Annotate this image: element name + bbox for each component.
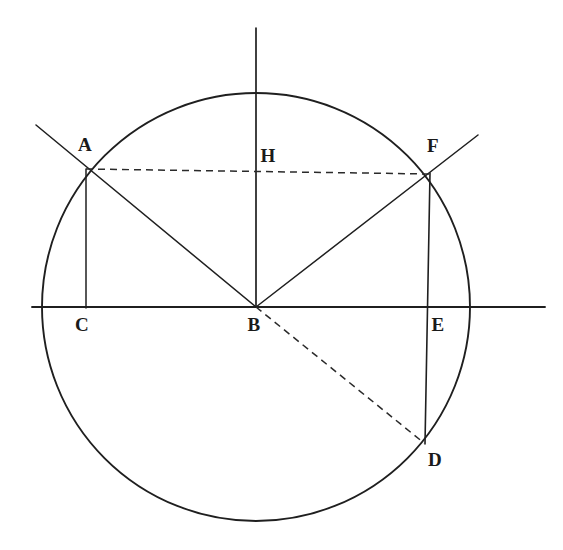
geometry-canvas <box>0 0 563 550</box>
point-label-c: C <box>75 315 89 334</box>
geometry-figure: A B C D E F H <box>0 0 563 550</box>
point-label-d: D <box>428 450 442 469</box>
point-label-b: B <box>248 315 261 334</box>
segment-bd-dashed-line <box>256 307 424 443</box>
point-label-f: F <box>427 136 439 155</box>
point-label-e: E <box>432 315 445 334</box>
point-label-h: H <box>260 146 275 165</box>
perpendicular-fed-line <box>425 173 430 444</box>
chord-af-dashed-line <box>86 169 430 174</box>
radius-ba-line <box>36 125 256 307</box>
radius-bf-line <box>256 135 478 307</box>
point-label-a: A <box>78 135 92 154</box>
